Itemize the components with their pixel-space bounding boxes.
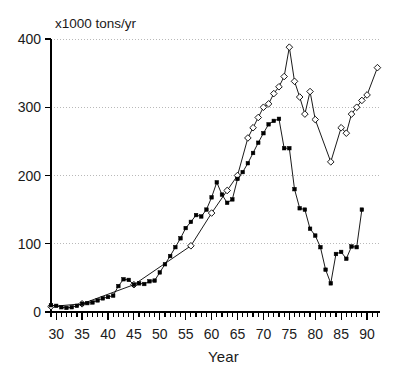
series-filled-square [49,117,363,310]
x-tick-label: 75 [282,326,298,342]
data-series-layer [48,44,381,310]
x-tick-label: 65 [230,326,246,342]
x-tick-label: 50 [152,326,168,342]
chart-figure: 010020030040030354045505560657075808590x… [0,0,401,376]
x-tick-label: 30 [48,326,64,342]
x-axis-title: Year [208,348,239,365]
x-tick-label: 55 [178,326,194,342]
x-tick-label: 35 [74,326,90,342]
x-tick-label: 70 [256,326,272,342]
y-tick-label: 0 [33,304,41,320]
y-tick-label: 400 [18,31,42,47]
y-tick-label: 100 [18,236,42,252]
x-tick-label: 90 [359,326,375,342]
series-open-diamond [48,44,381,310]
line-chart-plot: 010020030040030354045505560657075808590x… [0,0,401,376]
axis-ticks [45,39,377,320]
x-tick-label: 85 [333,326,349,342]
y-tick-label: 200 [18,168,42,184]
x-tick-label: 60 [204,326,220,342]
x-tick-label: 80 [307,326,323,342]
y-unit-label: x1000 tons/yr [55,16,137,31]
y-tick-label: 300 [18,99,42,115]
x-tick-label: 45 [126,326,142,342]
x-tick-label: 40 [100,326,116,342]
